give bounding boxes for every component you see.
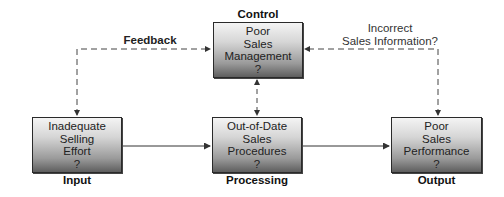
- output-line-3: Performance: [404, 145, 470, 158]
- input-line-3: Effort: [63, 145, 90, 158]
- output-line-1: Poor: [424, 120, 448, 133]
- feedback-label: Feedback: [115, 34, 185, 47]
- arrow-feedback: [77, 49, 211, 115]
- control-line-2: Sales: [244, 38, 273, 51]
- processing-node: Out-of-Date Sales Procedures ?: [212, 117, 302, 173]
- output-line-2: Sales: [422, 133, 451, 146]
- incorrect-info-line-1: Incorrect: [330, 22, 450, 35]
- output-node: Poor Sales Performance ?: [391, 117, 482, 173]
- processing-line-4: ?: [254, 158, 260, 171]
- control-line-4: ?: [255, 63, 261, 76]
- arrow-incorrect-info: [304, 49, 438, 115]
- input-line-1: Inadequate: [48, 120, 106, 133]
- output-label: Output: [391, 174, 482, 186]
- control-line-1: Poor: [246, 25, 270, 38]
- control-label: Control: [213, 8, 303, 20]
- control-line-3: Management: [224, 50, 291, 63]
- input-line-2: Selling: [60, 133, 95, 146]
- input-line-4: ?: [74, 158, 80, 171]
- incorrect-info-line-2: Sales Information?: [330, 35, 450, 48]
- output-line-4: ?: [433, 158, 439, 171]
- control-node: Poor Sales Management ?: [213, 22, 303, 78]
- processing-line-3: Procedures: [228, 145, 287, 158]
- incorrect-info-label: Incorrect Sales Information?: [330, 22, 450, 48]
- processing-label: Processing: [207, 174, 307, 186]
- input-node: Inadequate Selling Effort ?: [32, 117, 122, 173]
- input-label: Input: [32, 174, 122, 186]
- processing-line-1: Out-of-Date: [227, 120, 287, 133]
- processing-line-2: Sales: [243, 133, 272, 146]
